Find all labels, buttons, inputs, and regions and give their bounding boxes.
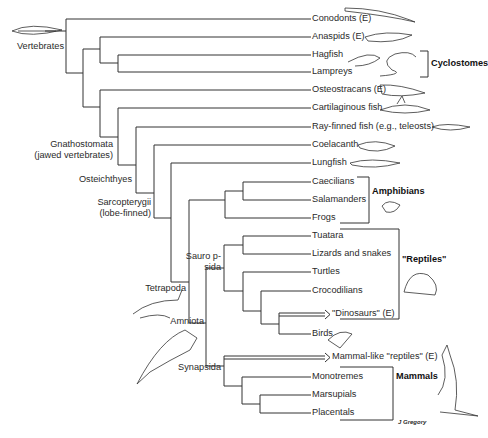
frog-icon	[382, 202, 400, 213]
leaf-marsupials: Marsupials	[312, 389, 356, 400]
clade-amniota: Amniota	[0, 316, 204, 327]
cyclostomes-bracket	[420, 51, 428, 77]
amniote-lizard-icon	[137, 330, 197, 384]
clade-gnathostomata-sub: (jawed vertebrates)	[0, 150, 113, 161]
clade-tetrapoda: Tetrapoda	[0, 283, 186, 294]
leaf-caecilians: Caecilians	[312, 176, 354, 187]
leaf-salamanders: Salamanders	[312, 194, 366, 205]
tetrapod-icon	[133, 290, 182, 318]
leaf-lampreys: Lampreys	[312, 66, 352, 77]
leaf-turtles: Turtles	[312, 266, 340, 277]
clade-synapsida: Synapsida	[0, 362, 221, 373]
clade-sarcopterygii-sub: (lobe-finned)	[0, 208, 151, 219]
leaf-monotremes: Monotremes	[312, 371, 363, 382]
leaf-frogs: Frogs	[312, 212, 336, 223]
leaf-conodonts: Conodonts (E)	[312, 13, 371, 24]
clade-osteichthyes: Osteichthyes	[0, 174, 132, 185]
lungfish-icon	[350, 160, 400, 167]
leaf-anaspids: Anaspids (E)	[312, 31, 365, 42]
leaf-cartilaginous-fish: Cartilaginous fish	[312, 102, 382, 113]
anaspid-icon	[365, 33, 412, 42]
leaf-coelacanth: Coelacanth	[312, 139, 358, 150]
leaf-dinosaurs: "Dinosaurs" (E)	[332, 308, 395, 319]
clade-sarcopterygii: Sarcopterygii	[0, 197, 151, 208]
turtle-icon	[404, 273, 436, 295]
shark-icon	[380, 96, 430, 113]
clade-vertebrates: Vertebrates	[4, 41, 64, 52]
leaf-lungfish: Lungfish	[312, 157, 347, 168]
group-mammals: Mammals	[396, 371, 438, 382]
coelacanth-icon	[358, 142, 395, 151]
hagfish-icon	[348, 55, 380, 66]
leaf-birds: Birds	[312, 328, 333, 339]
kangaroo-icon	[438, 345, 478, 416]
leaf-hagfish: Hagfish	[312, 49, 343, 60]
leaf-placentals: Placentals	[312, 407, 354, 418]
lamprey-icon	[380, 53, 416, 76]
group-amphibians: Amphibians	[372, 186, 425, 197]
leaf-crocodilians: Crocodilians	[312, 285, 363, 296]
osteostracan-icon	[380, 85, 425, 96]
amphioxus-icon	[12, 26, 62, 34]
zebrafish-icon	[432, 125, 470, 131]
group-reptiles: "Reptiles"	[402, 254, 446, 265]
clade-gnathostomata: Gnathostomata	[0, 139, 113, 150]
leaf-osteostracans: Osteostracans (E)	[312, 84, 386, 95]
clade-sauropsida-sub: sida	[0, 262, 221, 273]
leaf-ray-finned-fish: Ray-finned fish (e.g., teleosts)	[312, 121, 434, 132]
leaf-tuatara: Tuatara	[312, 230, 343, 241]
leaf-lizards-snakes: Lizards and snakes	[312, 248, 391, 259]
group-cyclostomes: Cyclostomes	[431, 58, 488, 69]
clade-sauropsida: Sauro p-	[0, 251, 221, 262]
leaf-mammal-like-reptiles: Mammal-like "reptiles" (E)	[332, 351, 438, 362]
artist-signature: J Gregory	[398, 417, 426, 428]
reptiles-bracket	[340, 229, 399, 319]
